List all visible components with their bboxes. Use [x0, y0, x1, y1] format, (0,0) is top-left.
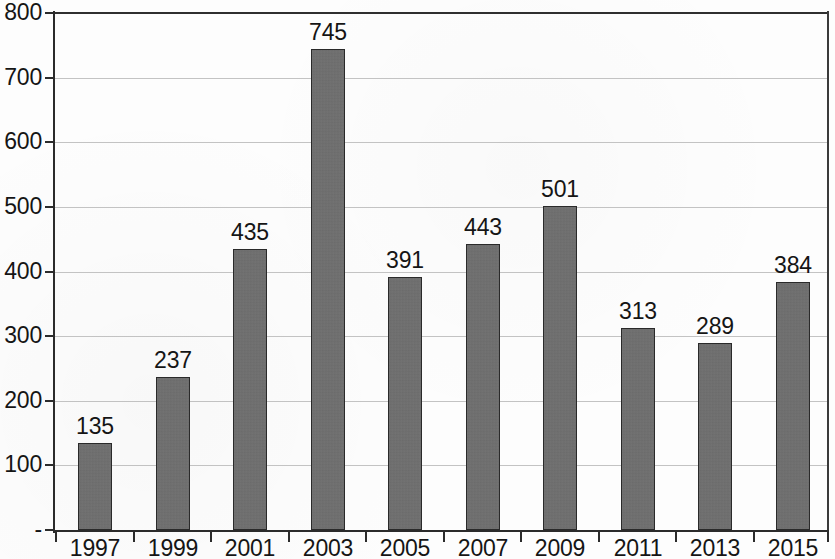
y-axis-tick-500 — [45, 206, 55, 208]
y-axis-tick-800 — [45, 12, 55, 14]
data-label-2013: 289 — [670, 315, 760, 338]
data-label-2003: 745 — [283, 21, 373, 44]
data-label-2015: 384 — [748, 254, 835, 277]
plot-top-border — [54, 12, 828, 14]
y-axis-label-600: 600 — [4, 130, 42, 153]
y-axis-tick-400 — [45, 271, 55, 273]
data-label-2005: 391 — [360, 249, 450, 272]
x-axis-label-2001: 2001 — [205, 536, 295, 559]
bar-2015[interactable] — [776, 282, 810, 530]
y-axis-label-400: 400 — [4, 260, 42, 283]
y-axis-tick-600 — [45, 141, 55, 143]
x-axis-label-2013: 2013 — [670, 536, 760, 559]
x-axis-line — [53, 530, 829, 532]
gridline-400 — [54, 272, 828, 273]
data-label-2009: 501 — [515, 178, 605, 201]
bar-chart: 800 700 600 500 400 300 200 100 - 135 23… — [0, 0, 835, 559]
data-label-1999: 237 — [128, 349, 218, 372]
y-axis-label-500: 500 — [4, 195, 42, 218]
y-axis-tick-0 — [45, 529, 55, 531]
bar-2005[interactable] — [388, 277, 422, 530]
x-axis-label-2005: 2005 — [360, 536, 450, 559]
bar-1997[interactable] — [78, 443, 112, 530]
x-axis-label-2015: 2015 — [748, 536, 835, 559]
gridline-600 — [54, 142, 828, 143]
data-label-2001: 435 — [205, 221, 295, 244]
y-axis-label-0: - — [35, 518, 42, 541]
bar-2001[interactable] — [233, 249, 267, 530]
bar-2009[interactable] — [543, 206, 577, 530]
gridline-500 — [54, 207, 828, 208]
x-axis-label-2009: 2009 — [515, 536, 605, 559]
y-axis-tick-100 — [45, 464, 55, 466]
y-axis-tick-700 — [45, 77, 55, 79]
y-axis-tick-200 — [45, 400, 55, 402]
y-axis-label-300: 300 — [4, 324, 42, 347]
bar-2007[interactable] — [466, 244, 500, 530]
bar-2003[interactable] — [311, 49, 345, 530]
x-axis-label-1997: 1997 — [50, 536, 140, 559]
y-axis-tick-300 — [45, 335, 55, 337]
data-label-2007: 443 — [438, 216, 528, 239]
y-axis-label-100: 100 — [4, 453, 42, 476]
y-axis-label-200: 200 — [4, 389, 42, 412]
gridline-700 — [54, 78, 828, 79]
y-axis-label-800: 800 — [4, 1, 42, 24]
y-axis-label-700: 700 — [4, 66, 42, 89]
bar-2011[interactable] — [621, 328, 655, 530]
data-label-1997: 135 — [50, 415, 140, 438]
bar-2013[interactable] — [698, 343, 732, 530]
bar-1999[interactable] — [156, 377, 190, 530]
